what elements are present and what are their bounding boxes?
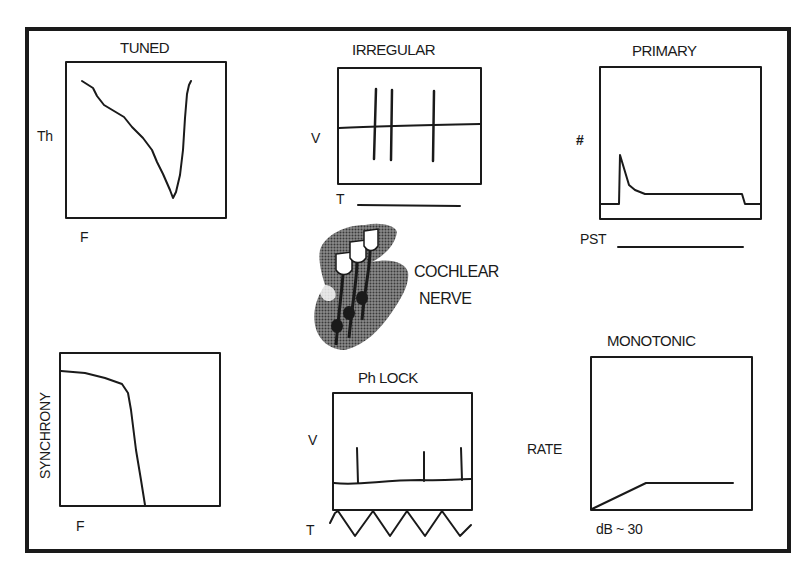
nerve-label: NERVE xyxy=(419,290,471,308)
irregular-baseline xyxy=(339,124,480,128)
primary-x-label: PST xyxy=(580,231,606,247)
phlock-spike-3 xyxy=(461,448,462,480)
phlock-y-label: V xyxy=(308,432,317,448)
spike-1 xyxy=(374,89,376,159)
rate-level-function xyxy=(592,483,733,509)
synchrony-y-label: SYNCHRONY xyxy=(37,392,53,479)
synchrony-curve xyxy=(61,371,145,505)
figure-artwork xyxy=(0,0,805,574)
pst-histogram xyxy=(601,155,760,204)
irregular-title: IRREGULAR xyxy=(352,41,435,58)
phlock-baseline xyxy=(334,479,471,484)
tuned-y-label: Th xyxy=(37,128,53,144)
primary-title: PRIMARY xyxy=(632,42,697,59)
irregular-time-bar xyxy=(358,205,460,206)
synchrony-x-label: F xyxy=(76,518,84,534)
monotonic-title: MONOTONIC xyxy=(607,332,696,349)
primary-y-label: # xyxy=(576,132,584,148)
phlock-x-label: T xyxy=(306,522,314,538)
monotonic-y-label: RATE xyxy=(527,441,562,457)
irregular-y-label: V xyxy=(311,130,320,146)
irregular-x-label: T xyxy=(336,191,344,207)
tuned-x-label: F xyxy=(80,229,88,245)
synchrony-plot-box xyxy=(60,353,220,506)
spike-2 xyxy=(391,90,392,160)
phlock-spike-1 xyxy=(357,448,358,483)
cochlear-nerve-illustration xyxy=(314,224,408,350)
cochlear-label: COCHLEAR xyxy=(414,263,499,281)
monotonic-x-label: dB ~ 30 xyxy=(596,521,643,537)
phlock-plot-box xyxy=(333,393,472,510)
spike-3 xyxy=(433,91,434,161)
primary-plot-box xyxy=(600,67,761,219)
phlock-title: Ph LOCK xyxy=(358,369,418,386)
tuned-title: TUNED xyxy=(120,39,169,56)
stimulus-sine-wave xyxy=(330,511,471,536)
monotonic-plot-box xyxy=(591,357,752,510)
tuning-curve xyxy=(82,81,191,198)
